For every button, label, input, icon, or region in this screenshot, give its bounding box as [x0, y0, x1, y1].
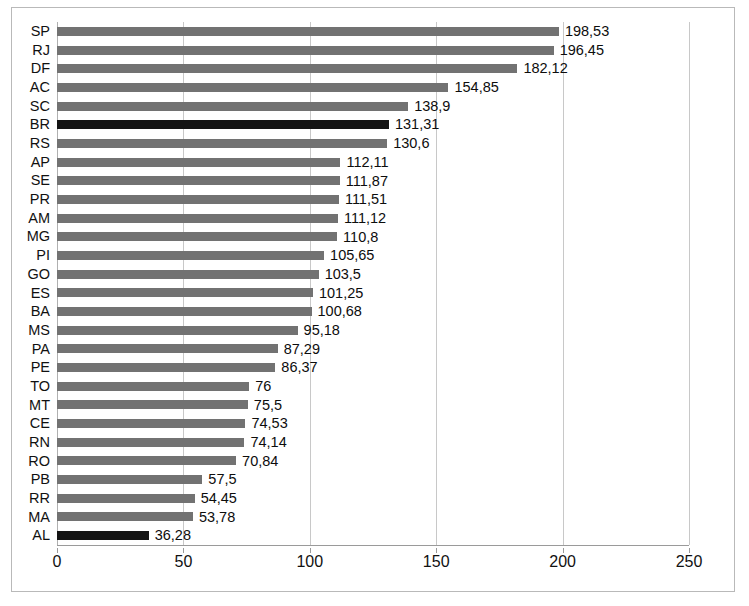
bar-value-label-es: 101,25 — [319, 286, 363, 301]
bar-row: MA53,78 — [57, 508, 689, 527]
bar-category-label-df: DF — [31, 59, 50, 78]
bar-row: SC138,9 — [57, 97, 689, 116]
x-tick-mark-50 — [183, 548, 184, 553]
bar-value-label-sc: 138,9 — [414, 99, 450, 114]
bar-pr — [57, 195, 339, 204]
bar-value-label-rr: 54,45 — [201, 491, 237, 506]
bar-row: SP198,53 — [57, 22, 689, 41]
bar-value-label-mt: 75,5 — [254, 398, 282, 413]
bar-category-label-sc: SC — [30, 97, 50, 116]
bar-row: MG110,8 — [57, 227, 689, 246]
bar-value-label-ms: 95,18 — [304, 323, 340, 338]
bars-layer: SP198,53RJ196,45DF182,12AC154,85SC138,9B… — [57, 22, 689, 545]
bar-ma — [57, 512, 193, 521]
bar-value-label-ce: 74,53 — [251, 416, 287, 431]
bar-category-label-ce: CE — [30, 414, 50, 433]
bar-category-label-sp: SP — [31, 22, 50, 41]
bar-category-label-ma: MA — [28, 508, 50, 527]
bar-df — [57, 64, 517, 73]
bar-row: DF182,12 — [57, 59, 689, 78]
bar-row: RN74,14 — [57, 433, 689, 452]
bar-value-label-to: 76 — [255, 379, 271, 394]
bar-mt — [57, 400, 248, 409]
bar-row: RO70,84 — [57, 452, 689, 471]
bar-row: BA100,68 — [57, 302, 689, 321]
bar-category-label-ro: RO — [28, 452, 50, 471]
bar-row: SE111,87 — [57, 171, 689, 190]
bar-ms — [57, 326, 298, 335]
x-tick-mark-150 — [436, 548, 437, 553]
bar-value-label-go: 103,5 — [325, 267, 361, 282]
bar-rj — [57, 46, 554, 55]
bar-pi — [57, 251, 324, 260]
x-tick-mark-200 — [563, 548, 564, 553]
bar-category-label-se: SE — [31, 171, 50, 190]
bar-category-label-br: BR — [30, 115, 50, 134]
bar-category-label-pe: PE — [31, 358, 50, 377]
x-tick-label-100: 100 — [296, 553, 323, 571]
bar-row: CE74,53 — [57, 414, 689, 433]
bar-al — [57, 531, 149, 540]
bar-pb — [57, 475, 202, 484]
gridline-250 — [689, 22, 690, 545]
bar-to — [57, 382, 249, 391]
bar-row: RR54,45 — [57, 489, 689, 508]
bar-es — [57, 288, 313, 297]
bar-value-label-pb: 57,5 — [208, 472, 236, 487]
bar-category-label-mg: MG — [27, 227, 50, 246]
bar-category-label-to: TO — [30, 377, 50, 396]
bar-value-label-ro: 70,84 — [242, 454, 278, 469]
bar-row: BR131,31 — [57, 115, 689, 134]
bar-row: PB57,5 — [57, 470, 689, 489]
bar-row: RJ196,45 — [57, 41, 689, 60]
x-tick-label-150: 150 — [423, 553, 450, 571]
bar-pa — [57, 344, 278, 353]
bar-am — [57, 214, 338, 223]
bar-row: PE86,37 — [57, 358, 689, 377]
bar-value-label-al: 36,28 — [155, 528, 191, 543]
bar-row: GO103,5 — [57, 265, 689, 284]
bar-chart-figure: SP198,53RJ196,45DF182,12AC154,85SC138,9B… — [11, 7, 735, 592]
bar-value-label-ap: 112,11 — [346, 155, 388, 170]
bar-sp — [57, 27, 559, 36]
bar-value-label-se: 111,87 — [346, 174, 388, 189]
bar-mg — [57, 232, 337, 241]
bar-rn — [57, 438, 244, 447]
bar-row: PI105,65 — [57, 246, 689, 265]
bar-category-label-pb: PB — [31, 470, 50, 489]
bar-value-label-pi: 105,65 — [330, 248, 374, 263]
bar-category-label-al: AL — [32, 526, 50, 545]
bar-value-label-am: 111,12 — [344, 211, 386, 226]
bar-value-label-br: 131,31 — [395, 117, 439, 132]
x-tick-label-250: 250 — [676, 553, 703, 571]
bar-go — [57, 270, 319, 279]
x-tick-mark-250 — [689, 548, 690, 553]
bar-category-label-mt: MT — [29, 396, 50, 415]
bar-row: MT75,5 — [57, 396, 689, 415]
bar-value-label-mg: 110,8 — [343, 230, 378, 245]
bar-row: PA87,29 — [57, 340, 689, 359]
bar-category-label-es: ES — [31, 284, 50, 303]
bar-value-label-ac: 154,85 — [454, 80, 498, 95]
bar-row: AM111,12 — [57, 209, 689, 228]
bar-ac — [57, 83, 448, 92]
bar-row: AL36,28 — [57, 526, 689, 545]
bar-row: AC154,85 — [57, 78, 689, 97]
bar-category-label-pi: PI — [36, 246, 50, 265]
bar-row: TO76 — [57, 377, 689, 396]
plot-area: SP198,53RJ196,45DF182,12AC154,85SC138,9B… — [57, 22, 689, 545]
bar-value-label-ba: 100,68 — [318, 304, 362, 319]
x-tick-mark-0 — [57, 548, 58, 553]
bar-category-label-am: AM — [28, 209, 50, 228]
bar-category-label-ap: AP — [31, 153, 50, 172]
bar-ce — [57, 419, 245, 428]
bar-ap — [57, 158, 340, 167]
bar-row: ES101,25 — [57, 284, 689, 303]
x-tick-mark-100 — [310, 548, 311, 553]
bar-rs — [57, 139, 387, 148]
bar-category-label-pa: PA — [32, 340, 50, 359]
x-axis-line — [57, 545, 689, 546]
bar-category-label-go: GO — [27, 265, 50, 284]
bar-rr — [57, 494, 195, 503]
x-tick-label-200: 200 — [549, 553, 576, 571]
